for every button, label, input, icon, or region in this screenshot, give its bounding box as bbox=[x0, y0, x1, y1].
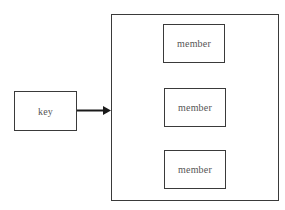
member-label-3: member bbox=[178, 164, 212, 175]
member-node-2: member bbox=[164, 88, 226, 127]
key-label: key bbox=[38, 106, 53, 117]
arrowhead-icon bbox=[103, 106, 111, 115]
member-node-1: member bbox=[163, 24, 225, 63]
member-node-3: member bbox=[164, 150, 226, 189]
member-label-1: member bbox=[177, 38, 211, 49]
key-node: key bbox=[14, 91, 77, 131]
member-label-2: member bbox=[178, 102, 212, 113]
